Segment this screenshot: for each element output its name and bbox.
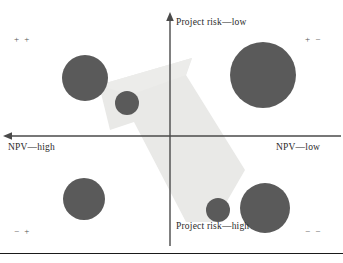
bubble-bottom-left (63, 178, 105, 220)
quadrant-sign-bottom-left: − + (14, 226, 31, 236)
axis-label-npv-low: NPV—low (276, 142, 320, 152)
bubble-center-small (115, 91, 139, 115)
quadrant-bubble-chart: Project risk—low Project risk—high NPV—h… (0, 0, 343, 263)
axis-arrow-left-icon (3, 132, 12, 140)
quadrant-sign-bottom-right: − − (305, 226, 322, 236)
bubble-top-left-large (62, 55, 108, 101)
bubble-top-right-large (230, 42, 296, 108)
bubble-bottom-mid-small (206, 198, 230, 222)
strategy-direction-arrow (99, 58, 245, 222)
axis-label-risk-high: Project risk—high (176, 221, 249, 231)
axis-arrow-up-icon (166, 12, 174, 21)
axis-label-risk-low: Project risk—low (176, 17, 246, 27)
quadrant-sign-top-right: + − (305, 34, 322, 44)
quadrant-sign-top-left: + + (14, 34, 31, 44)
axis-label-npv-high: NPV—high (8, 142, 55, 152)
chart-canvas (0, 0, 343, 263)
figure-bottom-rule (0, 253, 343, 254)
